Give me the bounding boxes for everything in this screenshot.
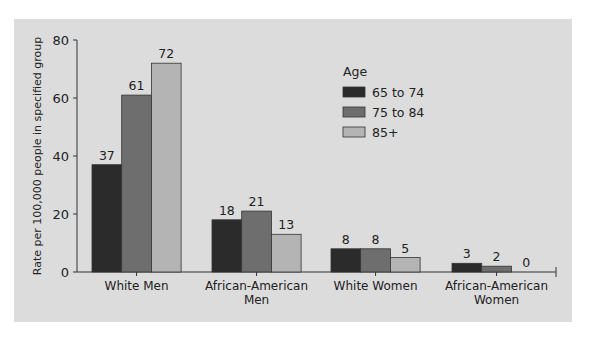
bar — [122, 95, 152, 272]
legend-swatch — [343, 107, 365, 117]
bar-value-label: 5 — [401, 241, 409, 256]
x-category-label: Men — [244, 293, 269, 307]
bar — [452, 263, 482, 272]
bar-value-label: 21 — [249, 194, 265, 209]
y-tick-label: 40 — [52, 149, 69, 164]
y-tick-label: 20 — [52, 207, 69, 222]
bar — [151, 63, 181, 272]
bar — [482, 266, 512, 272]
legend-label: 85+ — [372, 125, 398, 140]
bar-value-label: 61 — [129, 78, 145, 93]
y-axis-label: Rate per 100,000 people in specified gro… — [31, 37, 44, 276]
bar — [331, 249, 361, 272]
bar-value-label: 2 — [493, 249, 501, 264]
y-tick-label: 80 — [52, 33, 69, 48]
x-category-label: White Women — [334, 279, 418, 293]
bar — [271, 234, 301, 272]
legend-swatch — [343, 127, 365, 137]
bar — [242, 211, 272, 272]
bar — [361, 249, 391, 272]
x-category-label: White Men — [105, 279, 169, 293]
x-category-label: Women — [474, 293, 519, 307]
legend-title: Age — [343, 64, 367, 79]
y-tick-label: 60 — [52, 91, 69, 106]
bar — [212, 220, 242, 272]
bar-value-label: 8 — [342, 232, 350, 247]
bar-value-label: 37 — [99, 148, 115, 163]
bar-value-label: 72 — [158, 46, 174, 61]
x-category-label: African-American — [205, 279, 308, 293]
legend-swatch — [343, 87, 365, 97]
bar — [390, 258, 420, 273]
x-category-label: African-American — [445, 279, 548, 293]
y-tick-label: 0 — [61, 265, 69, 280]
bar — [92, 165, 122, 272]
bar-value-label: 8 — [372, 232, 380, 247]
bar-value-label: 18 — [219, 203, 235, 218]
bar-chart: 020406080Rate per 100,000 people in spec… — [0, 0, 589, 338]
bar-value-label: 3 — [463, 246, 471, 261]
legend-label: 75 to 84 — [372, 105, 424, 120]
bar-value-label: 0 — [522, 255, 530, 270]
bar-value-label: 13 — [278, 217, 294, 232]
legend-label: 65 to 74 — [372, 85, 424, 100]
